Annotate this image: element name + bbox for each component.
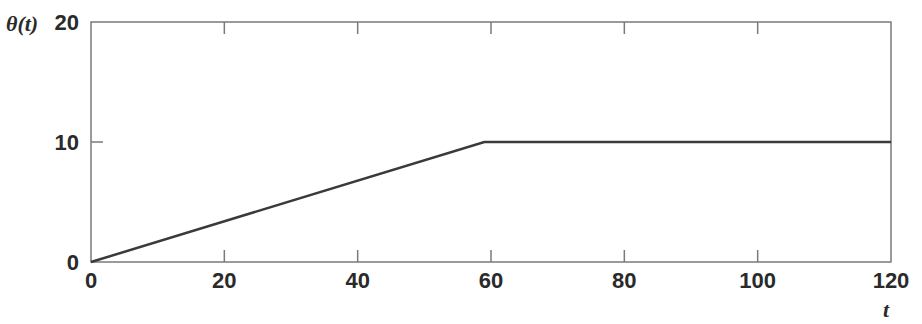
x-tick-label: 40 bbox=[345, 268, 369, 293]
theta-line bbox=[91, 142, 891, 262]
y-tick-label: 20 bbox=[55, 10, 79, 35]
x-tick-label: 20 bbox=[212, 268, 236, 293]
x-tick-label: 120 bbox=[873, 268, 910, 293]
tick-labels: 02040608010012001020 bbox=[55, 10, 910, 293]
x-tick-label: 0 bbox=[85, 268, 97, 293]
y-axis-label: θ(t) bbox=[6, 11, 38, 36]
y-tick-label: 10 bbox=[55, 130, 79, 155]
y-tick-label: 0 bbox=[67, 250, 79, 275]
x-tick-label: 100 bbox=[739, 268, 776, 293]
x-axis-label: t bbox=[883, 297, 890, 322]
x-tick-label: 60 bbox=[479, 268, 503, 293]
x-tick-label: 80 bbox=[612, 268, 636, 293]
line-chart: 02040608010012001020 θ(t) t bbox=[0, 0, 922, 324]
